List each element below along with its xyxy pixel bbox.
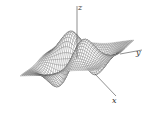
x-axis xyxy=(95,74,116,96)
z-axis-label: z xyxy=(78,4,82,12)
x-axis-label: x xyxy=(112,97,117,105)
surface-plot xyxy=(0,0,150,116)
y-axis-label: y xyxy=(136,49,141,57)
